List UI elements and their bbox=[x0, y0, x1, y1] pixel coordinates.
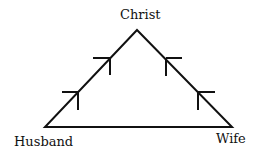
node-label-christ: Christ bbox=[120, 8, 161, 21]
node-label-husband: Husband bbox=[14, 135, 73, 148]
node-label-wife: Wife bbox=[216, 132, 246, 145]
triangle-outline bbox=[45, 30, 232, 127]
